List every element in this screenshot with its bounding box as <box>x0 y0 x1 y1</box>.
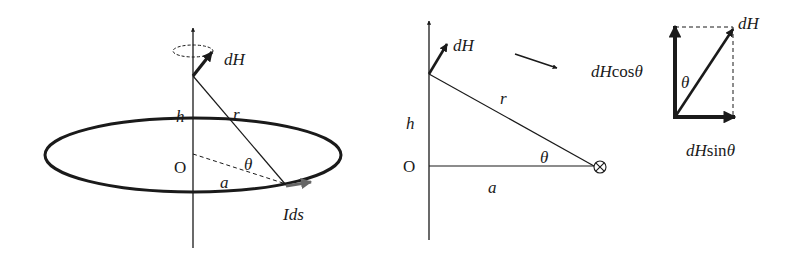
label-dHsin-theta: dHsinθ <box>686 141 735 160</box>
label-O: O <box>403 157 415 176</box>
label-dH: dH <box>453 36 476 55</box>
label-O: O <box>174 158 186 177</box>
transition-arrow-icon <box>515 54 557 68</box>
dH-vector <box>429 44 447 74</box>
label-theta: θ <box>540 148 548 167</box>
label-theta: θ <box>244 155 252 174</box>
label-r: r <box>500 89 507 108</box>
middle-figure-cross-section: dH r h O θ a <box>403 21 606 240</box>
current-into-page-icon <box>594 161 606 173</box>
label-r: r <box>233 105 240 124</box>
label-h: h <box>176 107 185 126</box>
label-a: a <box>220 173 229 192</box>
label-dH: dH <box>224 50 247 69</box>
label-Ids: Ids <box>282 205 304 224</box>
label-h: h <box>406 114 415 133</box>
r-line <box>429 74 594 166</box>
dH-vector <box>193 52 212 76</box>
label-theta: θ <box>681 73 689 92</box>
label-a: a <box>488 178 497 197</box>
r-line <box>193 76 286 185</box>
label-dHcos-theta: dHcosθ <box>591 62 643 81</box>
left-figure-loop: dH h r O θ a Ids <box>45 28 341 248</box>
biot-savart-loop-diagram: dH h r O θ a Ids dH r h O θ a dH dHc <box>0 0 805 263</box>
label-dH: dH <box>738 14 761 33</box>
right-figure-components: dH dHcosθ θ dHsinθ <box>591 14 761 160</box>
